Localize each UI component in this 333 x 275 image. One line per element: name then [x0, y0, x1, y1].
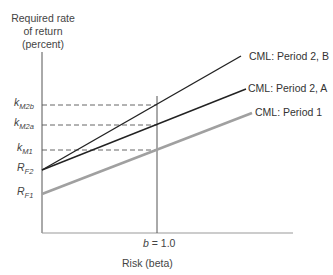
legend-cml-period-2b: CML: Period 2, B [249, 50, 329, 62]
y-axis-label: Required rate of return (percent) [8, 12, 78, 51]
tick-kM2b: kM2b [14, 96, 34, 111]
legend-cml-period-2a: CML: Period 2, A [248, 82, 327, 94]
y-axis-label-line-1: Required rate [8, 12, 78, 25]
tick-RF2: RF2 [17, 161, 33, 176]
tick-RF1: RF1 [17, 185, 33, 200]
x-tick-beta-one: b = 1.0 [143, 237, 175, 249]
tick-kM2a: kM2a [14, 116, 34, 131]
legend-cml-period-1: CML: Period 1 [255, 106, 322, 118]
y-axis-label-line-2: of return [8, 25, 78, 38]
x-axis-label: Risk (beta) [122, 257, 173, 269]
cml-period-2b-line [42, 56, 241, 170]
tick-kM1: kM1 [17, 141, 33, 156]
y-axis-label-line-3: (percent) [8, 38, 78, 51]
cml-period-2a-line [42, 89, 246, 170]
